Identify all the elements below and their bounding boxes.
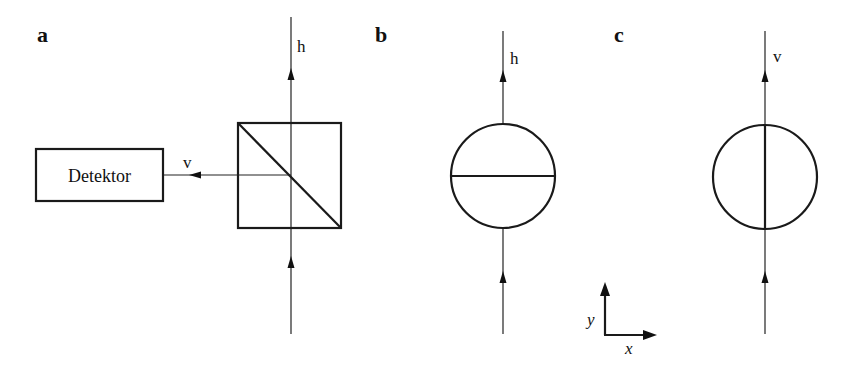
beam-label-v-c: v — [773, 47, 782, 66]
arrow-up-icon — [500, 271, 507, 283]
beam-label-v-a: v — [183, 153, 192, 172]
y-axis-label: y — [585, 310, 595, 329]
panel-label-c: c — [614, 22, 624, 47]
arrow-up-icon — [762, 271, 769, 283]
arrow-up-icon — [762, 70, 769, 82]
panel-label-a: a — [37, 22, 48, 47]
x-axis-label: x — [624, 339, 633, 358]
detector-label: Detektor — [68, 166, 131, 186]
beam-label-h-a: h — [297, 37, 306, 56]
y-axis-arrow-icon — [600, 282, 610, 296]
arrow-up-icon — [500, 70, 507, 82]
arrow-left-icon — [189, 172, 201, 179]
panel-b: b h — [375, 22, 555, 334]
diagram-canvas: a h v Detektor b h c v — [0, 0, 851, 369]
coordinate-axes: y x — [585, 282, 657, 358]
panel-a: a h v Detektor — [36, 17, 341, 334]
x-axis-arrow-icon — [643, 330, 657, 340]
panel-c: c v — [614, 22, 817, 334]
arrow-up-icon — [288, 68, 295, 80]
beam-label-h-b: h — [510, 49, 519, 68]
panel-label-b: b — [375, 22, 387, 47]
arrow-up-icon — [288, 256, 295, 268]
